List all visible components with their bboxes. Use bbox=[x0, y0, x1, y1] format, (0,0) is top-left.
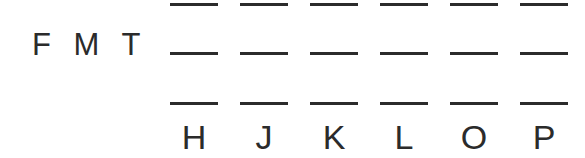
column-label-h: H bbox=[170, 120, 218, 154]
row-label-fmt: F M T bbox=[32, 29, 147, 60]
answer-blank-l-row3[interactable] bbox=[380, 102, 428, 105]
column-label-l: L bbox=[380, 120, 428, 154]
answer-blank-p-row3[interactable] bbox=[520, 102, 568, 105]
column-label-o: O bbox=[450, 120, 498, 154]
column-label-p: P bbox=[520, 120, 568, 154]
column-label-k: K bbox=[310, 120, 358, 154]
answer-blank-p-row1[interactable] bbox=[520, 3, 568, 6]
answer-blank-k-row3[interactable] bbox=[310, 102, 358, 105]
answer-blank-j-row2[interactable] bbox=[240, 52, 288, 55]
column-label-row: HJKLOP bbox=[170, 120, 566, 156]
answer-blank-h-row2[interactable] bbox=[170, 52, 218, 55]
answer-blank-o-row3[interactable] bbox=[450, 102, 498, 105]
answer-blank-j-row1[interactable] bbox=[240, 3, 288, 6]
blank-row bbox=[170, 3, 566, 7]
blank-row bbox=[170, 52, 566, 56]
answer-blank-h-row1[interactable] bbox=[170, 3, 218, 6]
answer-blank-o-row1[interactable] bbox=[450, 3, 498, 6]
blank-row bbox=[170, 102, 566, 106]
answer-blank-h-row3[interactable] bbox=[170, 102, 218, 105]
column-label-j: J bbox=[240, 120, 288, 154]
answer-blank-j-row3[interactable] bbox=[240, 102, 288, 105]
worksheet-canvas: F M T HJKLOP bbox=[0, 0, 585, 158]
answer-blank-l-row2[interactable] bbox=[380, 52, 428, 55]
answer-blank-o-row2[interactable] bbox=[450, 52, 498, 55]
answer-blank-k-row1[interactable] bbox=[310, 3, 358, 6]
answer-blank-p-row2[interactable] bbox=[520, 52, 568, 55]
answer-blank-k-row2[interactable] bbox=[310, 52, 358, 55]
answer-blank-l-row1[interactable] bbox=[380, 3, 428, 6]
